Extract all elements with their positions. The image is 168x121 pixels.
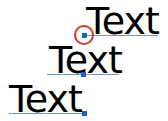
text-label-3[interactable]: Text bbox=[9, 80, 82, 118]
anchor-marker-3[interactable] bbox=[82, 111, 87, 116]
text-label-1[interactable]: Text bbox=[86, 2, 159, 40]
